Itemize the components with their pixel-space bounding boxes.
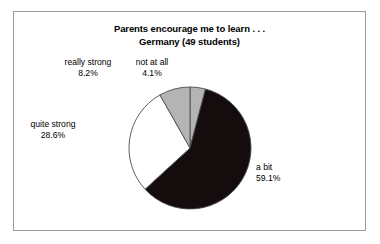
pie-label-really-strong-name: really strong — [55, 57, 121, 68]
pie-label-a-bit-name: a bit — [256, 162, 326, 173]
pie-label-not-at-all-name: not at all — [124, 57, 180, 68]
pie-label-a-bit-pct: 59.1% — [256, 173, 326, 184]
pie-label-quite-strong-name: quite strong — [20, 119, 86, 130]
pie-label-not-at-all: not at all 4.1% — [124, 57, 180, 79]
pie-label-quite-strong: quite strong 28.6% — [20, 119, 86, 141]
pie-label-a-bit: a bit 59.1% — [256, 162, 326, 184]
pie-label-quite-strong-pct: 28.6% — [20, 130, 86, 141]
pie-slice-group — [129, 87, 251, 209]
pie-label-really-strong: really strong 8.2% — [55, 57, 121, 79]
pie-label-really-strong-pct: 8.2% — [55, 68, 121, 79]
figure-card: Parents encourage me to learn . . . Germ… — [13, 11, 366, 231]
pie-chart: really strong 8.2% not at all 4.1% quite… — [14, 12, 365, 230]
pie-label-not-at-all-pct: 4.1% — [124, 68, 180, 79]
